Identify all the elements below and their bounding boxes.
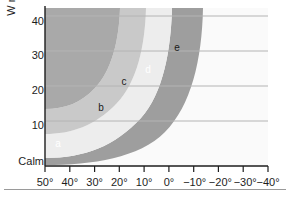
y-axis-tick-labels: 40 30 20 10 Calm <box>10 0 44 170</box>
x-tick-label-neg40: −40° <box>256 177 279 188</box>
band-regions <box>45 8 268 165</box>
x-tick-label-neg10: −10° <box>183 177 206 188</box>
bottom-divider <box>4 189 286 190</box>
x-tick-label-50: 50° <box>37 177 54 188</box>
region-marker-e: e <box>172 41 182 54</box>
x-tick-label-40: 40° <box>61 177 78 188</box>
x-tick-label-0: 0° <box>164 177 175 188</box>
y-tick-label-calm: Calm <box>14 156 44 167</box>
plot-area <box>45 8 268 165</box>
x-tick-label-neg20: −20° <box>209 177 232 188</box>
region-marker-b: b <box>96 101 106 114</box>
x-tick-label-10: 10° <box>136 177 153 188</box>
region-marker-d: d <box>143 63 153 76</box>
y-tick-label-20: 20 <box>14 85 44 96</box>
region-marker-a: a <box>53 137 63 150</box>
x-tick-label-neg30: −30° <box>234 177 257 188</box>
y-tick-label-30: 30 <box>14 50 44 61</box>
wind-chill-chart: W nd speed (MPH) 40 30 20 10 Calm <box>0 0 290 197</box>
y-tick-label-10: 10 <box>14 120 44 131</box>
x-tick-label-20: 20° <box>111 177 128 188</box>
region-marker-c: c <box>120 75 129 88</box>
y-tick-label-40: 40 <box>14 16 44 27</box>
x-tick-label-30: 30° <box>86 177 103 188</box>
